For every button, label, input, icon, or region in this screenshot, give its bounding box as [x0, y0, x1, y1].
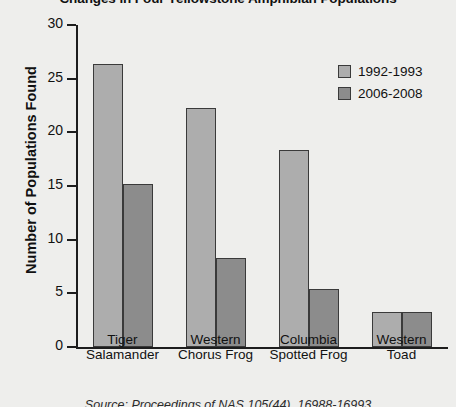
y-tick-label: 25: [47, 69, 63, 85]
y-tick-25: 25: [67, 78, 76, 80]
bar: [186, 108, 216, 347]
bar: [93, 64, 123, 347]
y-tick-label: 15: [47, 176, 63, 192]
legend-label: 1992-1993: [358, 64, 423, 79]
legend-swatch-icon: [338, 65, 351, 78]
y-tick-15: 15: [67, 185, 76, 187]
x-category-label: Western Chorus Frog: [169, 332, 262, 362]
y-tick-20: 20: [67, 131, 76, 133]
bar: [279, 150, 309, 347]
y-tick-label: 30: [47, 15, 63, 31]
y-tick-label: 5: [55, 283, 63, 299]
legend-label: 2006-2008: [358, 86, 423, 101]
source-caption: Source: Proceedings of NAS 105(44), 1698…: [0, 398, 456, 407]
x-category-label: Tiger Salamander: [76, 332, 169, 362]
legend-item: 1992-1993: [338, 60, 423, 82]
y-tick-label: 20: [47, 122, 63, 138]
y-tick-label: 0: [55, 337, 63, 353]
x-category-label: Western Toad: [355, 332, 448, 362]
y-axis-line: [76, 25, 78, 347]
y-tick-10: 10: [67, 239, 76, 241]
chart-figure: Changes in Four Yellowstone Amphibian Po…: [0, 0, 456, 407]
y-axis-title: Number of Populations Found: [23, 10, 39, 330]
x-category-label: Columbia Spotted Frog: [262, 332, 355, 362]
y-tick-0: 0: [67, 346, 76, 348]
y-tick-label: 10: [47, 230, 63, 246]
chart-legend: 1992-19932006-2008: [338, 60, 423, 104]
y-tick-30: 30: [67, 24, 76, 26]
chart-title: Changes in Four Yellowstone Amphibian Po…: [0, 0, 456, 6]
bar: [123, 184, 153, 347]
y-tick-5: 5: [67, 292, 76, 294]
legend-item: 2006-2008: [338, 82, 423, 104]
legend-swatch-icon: [338, 87, 351, 100]
